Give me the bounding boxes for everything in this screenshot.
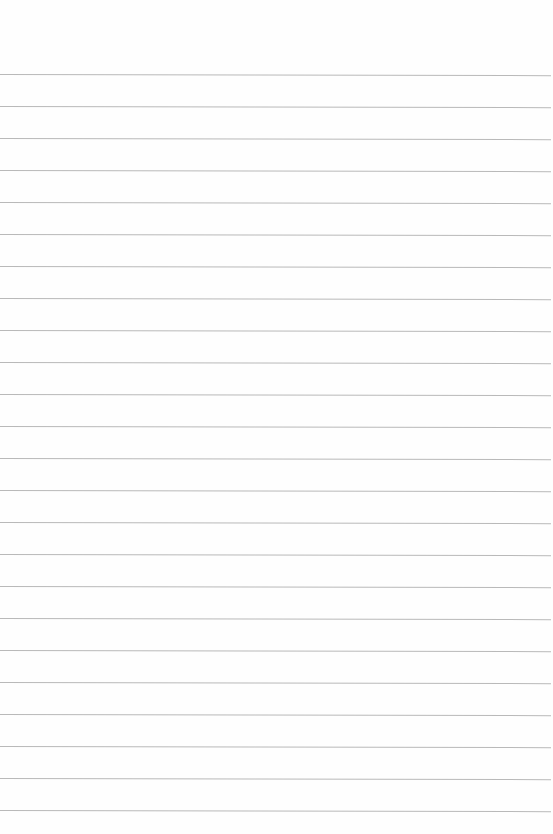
ruled-line [0,394,551,396]
ruled-line [0,330,551,332]
ruled-line [0,522,551,524]
ruled-line [0,650,551,652]
ruled-line [0,202,551,204]
ruled-line [0,362,551,364]
ruled-line [0,618,551,620]
ruled-line [0,746,551,748]
ruled-line [0,458,551,460]
ruled-line [0,106,551,108]
ruled-line [0,298,551,300]
ruled-line [0,490,551,492]
ruled-line [0,138,551,140]
ruled-line [0,74,551,76]
ruled-line [0,426,551,428]
ruled-line [0,810,551,812]
ruled-line [0,234,551,236]
ruled-line [0,682,551,684]
ruled-paper-sheet [0,0,553,834]
ruled-line [0,778,551,780]
ruled-line [0,714,551,716]
ruled-line [0,170,551,172]
ruled-line [0,266,551,268]
ruled-line [0,554,551,556]
ruled-line [0,586,551,588]
